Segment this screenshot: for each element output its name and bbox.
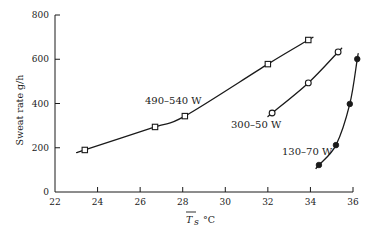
circle-marker — [269, 110, 275, 116]
circle-marker — [335, 49, 341, 55]
y-axis-title: Sweat rate g/h — [14, 75, 25, 146]
x-tick-label: 26 — [134, 197, 146, 207]
circle-marker — [305, 80, 311, 86]
square-marker — [182, 113, 187, 118]
dot-marker — [347, 101, 353, 107]
series-label-490-540: 490–540 W — [145, 95, 202, 106]
series-curve — [268, 48, 342, 116]
y-tick-label: 600 — [32, 54, 49, 64]
y-tick-label: 0 — [43, 187, 49, 197]
dot-marker — [316, 162, 322, 168]
y-tick-label: 800 — [32, 10, 49, 20]
dot-marker — [354, 56, 360, 62]
square-marker — [306, 37, 311, 42]
x-tick-label: 34 — [305, 197, 317, 207]
y-tick-label: 200 — [32, 143, 49, 153]
series-label-130-70: 130–70 W — [282, 146, 333, 157]
x-tick-label: 36 — [347, 197, 359, 207]
x-axis-subscript: s — [194, 216, 199, 227]
x-tick-label: 24 — [92, 197, 104, 207]
square-marker — [265, 61, 270, 66]
x-axis-title: T s °C — [186, 212, 215, 227]
sweat-rate-chart: 22242628303234360200400600800 490–540 W … — [0, 0, 372, 236]
dot-marker — [333, 142, 339, 148]
x-tick-label: 32 — [262, 197, 273, 207]
series-label-300-50: 300–50 W — [231, 119, 282, 130]
square-marker — [82, 147, 87, 152]
x-axis-unit: °C — [203, 214, 215, 225]
x-tick-label: 22 — [49, 197, 60, 207]
x-axis-symbol: T — [186, 214, 193, 225]
x-tick-label: 30 — [220, 197, 232, 207]
y-tick-label: 400 — [32, 99, 49, 109]
square-marker — [152, 124, 157, 129]
x-tick-label: 28 — [177, 197, 189, 207]
